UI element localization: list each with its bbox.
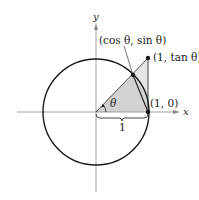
x-axis-label: x	[183, 106, 189, 117]
unit-point-marker	[146, 110, 150, 114]
y-axis	[94, 23, 98, 192]
angle-label: θ	[110, 97, 117, 109]
brace-label: 1	[119, 121, 126, 133]
tangent-point-marker	[146, 56, 150, 60]
y-axis-label: y	[92, 11, 99, 22]
unit-length-brace	[96, 114, 148, 121]
circle-point-marker	[131, 73, 135, 77]
unit-circle-diagram: y x (cos θ, sin θ) (1, tan θ) (1, 0) θ 1	[0, 0, 199, 200]
circle-point-label: (cos θ, sin θ)	[99, 34, 166, 46]
tangent-point-label: (1, tan θ)	[153, 51, 199, 63]
unit-point-label: (1, 0)	[150, 97, 178, 109]
